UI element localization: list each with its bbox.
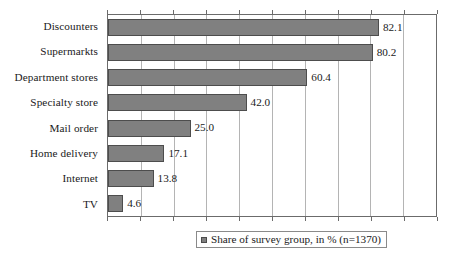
- bar: [108, 69, 307, 86]
- bar-value-label: 13.8: [158, 173, 178, 184]
- bar-value-label: 82.1: [383, 22, 403, 33]
- bar-row: 80.2: [108, 40, 436, 65]
- bar-value-label: 17.1: [168, 148, 188, 159]
- category-label: TV: [0, 192, 103, 217]
- legend-swatch-icon: [201, 237, 207, 243]
- bar-value-label: 4.6: [127, 198, 141, 209]
- legend-label: Share of survey group, in % (n=1370): [211, 234, 381, 245]
- bar-value-label: 42.0: [251, 97, 271, 108]
- axis-tick: [404, 217, 405, 221]
- axis-tick: [371, 217, 372, 221]
- bar-value-label: 80.2: [377, 47, 397, 58]
- bar-series: 82.180.260.442.025.017.113.84.6: [108, 15, 436, 216]
- bar-row: 17.1: [108, 141, 436, 166]
- bar-row: 60.4: [108, 65, 436, 90]
- bar: [108, 145, 164, 162]
- axis-tick: [206, 217, 207, 221]
- axis-tick: [437, 10, 438, 14]
- legend: Share of survey group, in % (n=1370): [196, 231, 387, 248]
- bar: [108, 170, 154, 187]
- bar-value-label: 25.0: [195, 122, 215, 133]
- category-label: Discounters: [0, 14, 103, 39]
- bar-row: 82.1: [108, 15, 436, 40]
- bar: [108, 195, 123, 212]
- axis-tick: [173, 217, 174, 221]
- bar: [108, 94, 247, 111]
- bar-row: 4.6: [108, 191, 436, 216]
- bar: [108, 44, 373, 61]
- category-axis-labels: Discounters Supermarkts Department store…: [0, 14, 103, 217]
- axis-tick: [239, 217, 240, 221]
- category-label: Supermarkts: [0, 39, 103, 64]
- category-label: Mail order: [0, 116, 103, 141]
- bar-chart: Discounters Supermarkts Department store…: [0, 0, 450, 262]
- category-label: Specialty store: [0, 90, 103, 115]
- axis-tick: [140, 217, 141, 221]
- bar-row: 13.8: [108, 166, 436, 191]
- x-axis-ticks-bottom: [107, 217, 437, 221]
- plot-area: 82.180.260.442.025.017.113.84.6: [107, 14, 437, 217]
- bar: [108, 19, 379, 36]
- category-label: Internet: [0, 166, 103, 191]
- axis-tick: [305, 217, 306, 221]
- axis-tick: [272, 217, 273, 221]
- category-label: Home delivery: [0, 141, 103, 166]
- bar-row: 42.0: [108, 90, 436, 115]
- axis-tick: [338, 217, 339, 221]
- category-label: Department stores: [0, 65, 103, 90]
- axis-tick: [437, 217, 438, 221]
- bar-value-label: 60.4: [311, 72, 331, 83]
- bar: [108, 120, 191, 137]
- bar-row: 25.0: [108, 116, 436, 141]
- axis-tick: [107, 217, 108, 221]
